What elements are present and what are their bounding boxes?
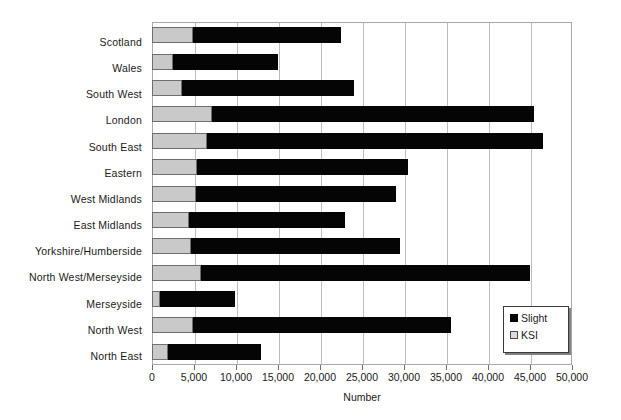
bar-segment-slight bbox=[197, 159, 409, 175]
y-tick-label: South West bbox=[86, 88, 142, 100]
bar-segment-slight bbox=[168, 344, 261, 360]
gridline bbox=[489, 23, 490, 364]
y-tick-label: North West/Merseyside bbox=[29, 271, 142, 283]
legend-item-ksi: KSI bbox=[510, 329, 568, 341]
y-tick-label: North East bbox=[90, 350, 142, 362]
bar-row bbox=[152, 265, 530, 281]
x-tick-mark bbox=[194, 365, 195, 370]
x-tick-mark bbox=[446, 365, 447, 370]
bar-segment-slight bbox=[160, 291, 235, 307]
legend-label: Slight bbox=[521, 312, 547, 324]
x-tick-mark bbox=[278, 365, 279, 370]
bar-segment-slight bbox=[201, 265, 530, 281]
y-tick-label: Eastern bbox=[104, 167, 142, 179]
bar-segment-ksi bbox=[152, 317, 193, 333]
bar-segment-ksi bbox=[152, 54, 173, 70]
stacked-bar-chart: Scotland Wales South West London South E… bbox=[0, 0, 621, 420]
x-tick-mark bbox=[362, 365, 363, 370]
x-axis-title: Number bbox=[152, 391, 572, 403]
bar-row bbox=[152, 344, 261, 360]
bar-segment-ksi bbox=[152, 133, 207, 149]
bar-segment-ksi bbox=[152, 106, 212, 122]
bar-segment-slight bbox=[191, 238, 400, 254]
x-tick-mark bbox=[572, 365, 573, 370]
light-gray-square-icon bbox=[510, 331, 518, 339]
bar-row bbox=[152, 27, 341, 43]
bar-row bbox=[152, 54, 278, 70]
bar-row bbox=[152, 106, 534, 122]
legend-label: KSI bbox=[521, 329, 538, 341]
bar-row bbox=[152, 186, 396, 202]
bar-segment-slight bbox=[173, 54, 278, 70]
bar-row bbox=[152, 159, 408, 175]
y-tick-label: South East bbox=[89, 141, 142, 153]
y-tick-label: Merseyside bbox=[86, 298, 142, 310]
bar-segment-ksi bbox=[152, 27, 193, 43]
bar-row bbox=[152, 133, 543, 149]
y-tick-label: West Midlands bbox=[71, 193, 142, 205]
bar-segment-slight bbox=[189, 212, 345, 228]
bar-segment-slight bbox=[193, 27, 341, 43]
chart-legend: Slight KSI bbox=[503, 306, 569, 353]
bar-segment-slight bbox=[182, 80, 353, 96]
x-tick-mark bbox=[320, 365, 321, 370]
bar-row bbox=[152, 80, 354, 96]
y-tick-label: North West bbox=[88, 324, 142, 336]
x-tick-mark bbox=[530, 365, 531, 370]
bar-segment-ksi bbox=[152, 186, 196, 202]
gridline bbox=[405, 23, 406, 364]
y-tick-label: Scotland bbox=[100, 36, 142, 48]
gridline bbox=[447, 23, 448, 364]
bar-segment-ksi bbox=[152, 291, 160, 307]
black-square-icon bbox=[510, 314, 518, 322]
x-tick-mark bbox=[404, 365, 405, 370]
x-tick-label: 50,000 bbox=[547, 371, 597, 383]
bar-segment-ksi bbox=[152, 212, 189, 228]
x-tick-mark bbox=[488, 365, 489, 370]
bar-segment-ksi bbox=[152, 159, 197, 175]
bar-segment-slight bbox=[196, 186, 396, 202]
bar-segment-slight bbox=[207, 133, 543, 149]
bar-segment-ksi bbox=[152, 238, 191, 254]
bar-segment-slight bbox=[212, 106, 535, 122]
bar-row bbox=[152, 317, 451, 333]
x-tick-mark bbox=[236, 365, 237, 370]
y-tick-label: Yorkshire/Humberside bbox=[35, 245, 142, 257]
bar-row bbox=[152, 238, 400, 254]
bar-segment-ksi bbox=[152, 344, 168, 360]
bar-segment-ksi bbox=[152, 80, 182, 96]
y-tick-label: East Midlands bbox=[73, 219, 142, 231]
x-tick-mark bbox=[152, 365, 153, 370]
bar-segment-ksi bbox=[152, 265, 201, 281]
y-tick-label: London bbox=[106, 114, 142, 126]
y-tick-label: Wales bbox=[112, 62, 142, 74]
bar-row bbox=[152, 291, 235, 307]
legend-item-slight: Slight bbox=[510, 312, 568, 324]
bar-row bbox=[152, 212, 345, 228]
y-axis-labels: Scotland Wales South West London South E… bbox=[0, 22, 148, 365]
bar-segment-slight bbox=[193, 317, 451, 333]
